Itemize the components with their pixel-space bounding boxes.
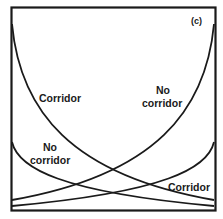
label-no-corridor-lower-line1: No <box>43 141 57 153</box>
label-corridor-lower: Corridor <box>168 181 210 193</box>
label-corridor-upper: Corridor <box>39 92 81 104</box>
diagram-canvas: (c) Corridor No corridor No corridor Cor… <box>0 0 223 219</box>
label-no-corridor-lower-line2: corridor <box>30 154 70 166</box>
label-no-corridor-upper-line2: corridor <box>142 97 182 109</box>
panel-label: (c) <box>191 16 202 26</box>
label-no-corridor-upper-line1: No <box>156 84 170 96</box>
